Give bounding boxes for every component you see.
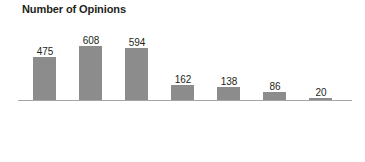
bar-value-label: 475: [22, 46, 68, 57]
bar-value-label: 608: [68, 35, 114, 46]
bar-value-label: 162: [160, 74, 206, 85]
bar-value-label: 86: [252, 81, 298, 92]
bar-value-label: 594: [114, 37, 160, 48]
bar-rect[interactable]: [263, 92, 286, 100]
bar-rect[interactable]: [79, 46, 102, 100]
x-axis-line: [18, 100, 352, 101]
bar-rect[interactable]: [309, 98, 332, 100]
bar-rect[interactable]: [171, 85, 194, 100]
bar-value-label: 138: [206, 76, 252, 87]
bar-rect[interactable]: [125, 48, 148, 100]
plot-area: 475 Criminal 608 Political 594 General 1…: [0, 0, 365, 162]
bar-value-label: 20: [298, 87, 344, 98]
bar-chart: Number of Opinions 475 Criminal 608 Poli…: [0, 0, 365, 162]
bar-rect[interactable]: [217, 87, 240, 100]
bar-rect[interactable]: [33, 57, 56, 100]
